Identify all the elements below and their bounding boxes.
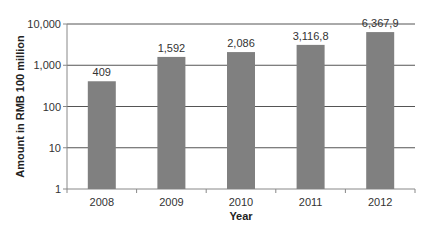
bar-2012 bbox=[366, 32, 394, 189]
bar-2010 bbox=[227, 52, 255, 189]
data-label: 6,367,9 bbox=[362, 17, 399, 29]
bar-2009 bbox=[157, 57, 185, 189]
x-tick-label: 2011 bbox=[299, 196, 323, 208]
x-tick-label: 2012 bbox=[368, 196, 392, 208]
y-tick-label: 1,000 bbox=[33, 59, 61, 71]
y-tick-label: 10,000 bbox=[27, 18, 61, 30]
data-label: 3,116,8 bbox=[293, 30, 329, 42]
y-tick-label: 100 bbox=[43, 101, 61, 113]
x-axis-title: Year bbox=[229, 210, 253, 222]
data-label: 409 bbox=[93, 66, 111, 78]
x-tick-label: 2009 bbox=[159, 196, 183, 208]
x-tick-label: 2008 bbox=[90, 196, 114, 208]
y-tick-label: 1 bbox=[55, 183, 61, 195]
data-label: 1,592 bbox=[158, 42, 186, 54]
y-tick-label: 10 bbox=[49, 142, 61, 154]
bar-2011 bbox=[297, 45, 325, 189]
x-tick-label: 2010 bbox=[229, 196, 253, 208]
bar-chart: 1101001,00010,00040920081,59220092,08620… bbox=[0, 0, 431, 232]
data-label: 2,086 bbox=[227, 37, 255, 49]
bar-2008 bbox=[88, 81, 116, 189]
y-axis-title: Amount in RMB 100 million bbox=[14, 35, 26, 178]
